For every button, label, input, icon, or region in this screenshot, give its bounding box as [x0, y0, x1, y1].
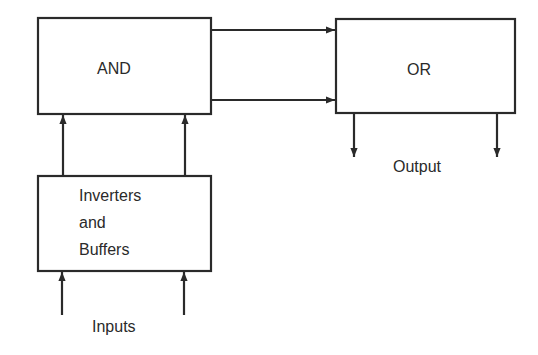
- inverters-label-line1: Inverters: [79, 188, 141, 204]
- output-label: Output: [393, 159, 441, 175]
- or-label: OR: [407, 62, 431, 78]
- diagram-canvas: [0, 0, 538, 355]
- inputs-label: Inputs: [92, 319, 136, 335]
- inverters-label-line3: Buffers: [79, 242, 129, 258]
- and-label: AND: [97, 61, 131, 77]
- inverters-label-line2: and: [79, 215, 106, 231]
